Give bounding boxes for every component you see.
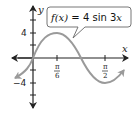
- svg-text:6: 6: [55, 72, 60, 80]
- y-tick-label-4: 4: [21, 28, 27, 38]
- svg-text:2: 2: [103, 72, 107, 80]
- y-tick-label-neg4: −4: [13, 78, 27, 88]
- svg-text:π: π: [55, 63, 60, 71]
- svg-text:π: π: [103, 63, 108, 71]
- sine-curve-left: [15, 58, 33, 78]
- x-tick-label-pi-2: π 2: [102, 63, 108, 80]
- y-axis-label: y: [37, 4, 44, 15]
- chart: y x 4 −4 π 6 π 2 f(x) = 4 sin 3x: [0, 0, 136, 113]
- x-axis-label: x: [122, 43, 128, 54]
- function-label: f(x) = 4 sin 3x: [50, 12, 122, 23]
- x-tick-label-pi-6: π 6: [54, 63, 60, 80]
